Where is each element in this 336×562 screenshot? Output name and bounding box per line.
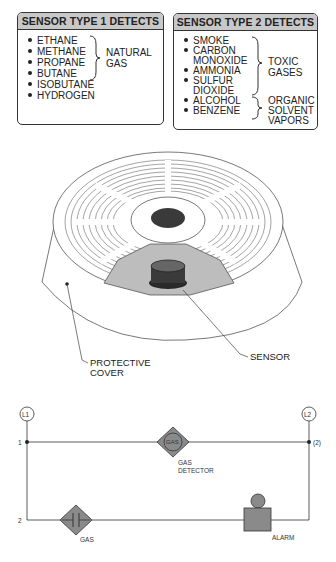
node-1-dot <box>25 440 29 444</box>
alarm-bell-icon <box>251 494 265 508</box>
ladder-diagram <box>0 0 336 562</box>
l2-label: L2 <box>304 411 311 418</box>
line-1-reference: (2) <box>313 439 321 446</box>
line-2-number: 2 <box>18 517 22 524</box>
alarm-label: ALARM <box>272 534 294 541</box>
l1-label: L1 <box>22 411 29 418</box>
line-1-number: 1 <box>18 439 22 446</box>
node-2-dot <box>307 440 311 444</box>
gas-detector-symbol-text: GAS <box>166 439 179 446</box>
gas-detector-label: GAS DETECTOR <box>178 459 214 475</box>
alarm-symbol <box>244 508 271 531</box>
gas-contact-label: GAS <box>80 536 94 543</box>
